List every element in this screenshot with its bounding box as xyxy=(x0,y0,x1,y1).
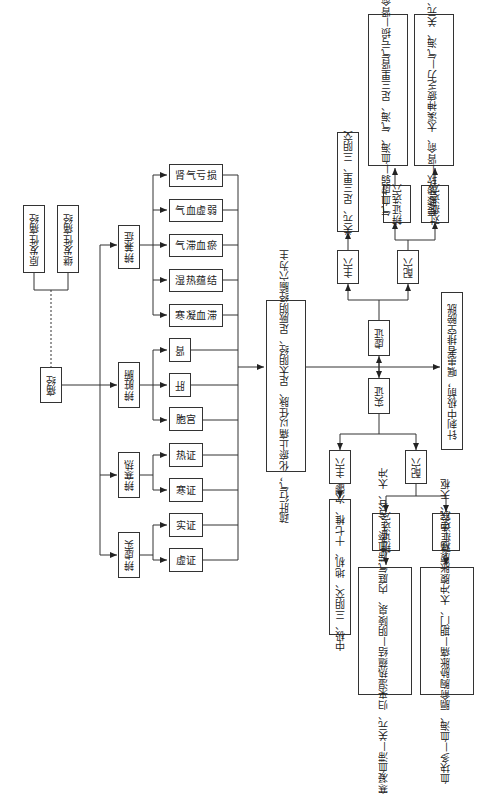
node-label: 实证 xyxy=(373,386,386,407)
content-line: 血块多—血海、膈俞 xyxy=(439,689,455,784)
def-exc-node: 实证 xyxy=(169,513,203,537)
node-label: 气滞血瘀 xyxy=(175,239,217,252)
organ-node: 肾 xyxy=(169,338,191,362)
diff-label: 辨兼症 xyxy=(123,231,136,263)
principle-text: 疏肝行气，化瘀止痛 以任脉、足太阴经、足厥阴经腧穴为主 xyxy=(278,250,295,523)
deficiency-symptom-content: 腰膝酸软—肾俞、太溪 神疲乏力—气海、关元、足三里 xyxy=(414,14,454,166)
def-exc-node: 虚证 xyxy=(169,548,203,572)
excess-main-points: 主穴 xyxy=(329,450,351,484)
node-label: 主穴 xyxy=(334,457,347,478)
content-line: 气滞血瘀—合谷、太冲 xyxy=(377,468,390,573)
diff-label: 辨虚实 xyxy=(123,539,136,571)
node-label: 胞宫 xyxy=(176,413,197,426)
syndrome-node: 气滞血瘀 xyxy=(169,234,223,257)
node-label: 热证 xyxy=(176,449,197,462)
node-label: 肾气亏损 xyxy=(175,169,217,182)
organ-node: 肝 xyxy=(169,373,191,397)
content: 血块多—血海、膈俞 胸胁胀痛—期门、太冲 腹胀腹痛—中脘、天枢 xyxy=(439,479,455,784)
type-label: 继发性痛经 xyxy=(62,213,75,266)
diff-label: 辨脏腑 xyxy=(123,369,136,401)
type-secondary-dysmenorrhea: 继发性痛经 xyxy=(57,205,79,273)
deficiency-main-points-content: 关元、足三里、三阴交 xyxy=(337,132,359,232)
deficiency-supplementary: 配穴 xyxy=(397,250,419,284)
syndrome-node: 肾气亏损 xyxy=(169,164,223,187)
organ-node: 胞宫 xyxy=(169,407,203,431)
node-label: 寒凝血滞 xyxy=(175,309,217,322)
content: 寒凝血滞—关元、归来 湿热蕴结—阴陵泉、内庭 气滞血瘀—合谷、太冲 xyxy=(377,468,393,794)
syndrome-node: 寒凝血滞 xyxy=(169,304,223,327)
content: 气血虚弱—血海、气海、足三里 肾气亏损—肾俞、太溪 xyxy=(380,0,397,216)
deficiency-syndrome-content: 气血虚弱—血海、气海、足三里 肾气亏损—肾俞、太溪 xyxy=(368,14,408,166)
content-line: 腰膝酸软—肾俞、太溪 xyxy=(426,111,443,216)
note-text: 针刺中极前，嘱患者排空膀胱 xyxy=(446,303,459,440)
diff-deficiency-excess: 辨虚实 xyxy=(118,532,140,578)
content-line: 胸胁胀痛—期门、太冲 xyxy=(439,584,452,689)
node-label: 虚证 xyxy=(373,328,386,349)
excess-supplementary: 配穴 xyxy=(405,450,427,484)
content-line: 湿热蕴结—阴陵泉、内庭 xyxy=(377,573,390,689)
principle-line: 疏肝行气，化瘀止痛 xyxy=(278,428,295,523)
cold-heat-node: 寒证 xyxy=(169,478,203,502)
excess-main-points-content: 中极、三阴交、地机、十七椎、次髎 xyxy=(329,499,351,635)
cold-heat-node: 热证 xyxy=(169,443,203,467)
node-label: 配穴 xyxy=(410,457,423,478)
diff-concurrent: 辨兼症 xyxy=(118,225,140,269)
node-label: 关元、足三里、三阴交 xyxy=(342,130,355,235)
root-node: 痛经 xyxy=(40,367,62,403)
diff-label: 辨寒热 xyxy=(123,459,136,491)
root-label: 痛经 xyxy=(45,375,58,396)
content: 腰膝酸软—肾俞、太溪 神疲乏力—气海、关元、足三里 xyxy=(426,0,443,216)
node-label: 湿热蕴结 xyxy=(175,274,217,287)
content-line: 气血虚弱—血海、气海、足三里 xyxy=(380,69,397,216)
syndrome-node: 湿热蕴结 xyxy=(169,269,223,292)
treatment-principle: 疏肝行气，化瘀止痛 以任脉、足太阴经、足厥阴经腧穴为主 xyxy=(266,300,306,472)
diff-organs: 辨脏腑 xyxy=(118,362,140,408)
excess-syndrome-content: 寒凝血滞—关元、归来 湿热蕴结—阴陵泉、内庭 气滞血瘀—合谷、太冲 xyxy=(358,567,412,695)
node-label: 寒证 xyxy=(176,484,197,497)
node-label: 配穴 xyxy=(402,257,415,278)
node-label: 虚证 xyxy=(176,554,197,567)
node-label: 气血虚弱 xyxy=(175,204,217,217)
principle-line: 以任脉、足太阴经、足厥阴经腧穴为主 xyxy=(278,250,291,429)
content-line: 寒凝血滞—关元、归来 xyxy=(377,689,393,794)
deficiency-node: 虚证 xyxy=(368,320,390,356)
type-primary-dysmenorrhea: 原发性痛经 xyxy=(23,205,45,273)
node-label: 主穴 xyxy=(342,257,355,278)
content-line: 腹胀腹痛—中脘、天枢 xyxy=(439,479,452,584)
node-label: 肝 xyxy=(174,380,187,391)
node-label: 中极、三阴交、地机、十七椎、次髎 xyxy=(334,483,347,651)
excess-symptom-content: 血块多—血海、膈俞 胸胁胀痛—期门、太冲 腹胀腹痛—中脘、天枢 xyxy=(420,567,474,695)
node-label: 肾 xyxy=(174,345,187,356)
excess-node: 实证 xyxy=(368,378,390,414)
type-label: 原发性痛经 xyxy=(28,213,41,266)
deficiency-main-points: 主穴 xyxy=(337,250,359,284)
node-label: 实证 xyxy=(176,519,197,532)
content-line: 肾气亏损—肾俞、太溪 xyxy=(380,0,393,69)
syndrome-node: 气血虚弱 xyxy=(169,199,223,222)
content-line: 神疲乏力—气海、关元、足三里 xyxy=(426,0,439,111)
diff-cold-heat: 辨寒热 xyxy=(118,452,140,498)
needling-note: 针刺中极前，嘱患者排空膀胱 xyxy=(441,292,463,450)
